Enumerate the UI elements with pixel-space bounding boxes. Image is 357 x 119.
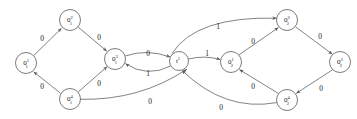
node-q22[interactable]: 022 (277, 10, 298, 31)
edge-label-t1-q22: 1 (216, 22, 220, 31)
edge-q23-q24 (296, 70, 333, 94)
node-q14[interactable]: 041 (60, 89, 81, 110)
edge-t1-q21 (188, 57, 220, 59)
edge-label-t1-q21: 1 (205, 49, 209, 58)
edge-q11-q12 (34, 28, 62, 55)
automaton-canvas: 011 021 031 041 t1 012 (0, 0, 357, 119)
edge-q24-t1 (182, 70, 277, 104)
edge-label-q24-q21: 0 (251, 82, 255, 91)
node-q24[interactable]: 042 (277, 90, 298, 111)
edge-label-q23-q24: 0 (319, 84, 323, 93)
edge-q22-q23 (296, 27, 333, 54)
edge-label-q14-q11: 0 (40, 82, 44, 91)
node-q21[interactable]: 012 (221, 52, 242, 73)
node-layer: 011 021 031 041 t1 012 (16, 10, 351, 111)
node-t1[interactable]: t1 (170, 52, 189, 71)
node-q23[interactable]: 032 (330, 52, 351, 73)
edge-t1-q22 (172, 18, 277, 53)
automaton-diagram: 011 021 031 041 t1 012 (0, 0, 357, 119)
edge-q12-q13 (78, 27, 107, 51)
edge-label-q12-q13: 0 (97, 33, 101, 42)
edge-q21-q22 (239, 28, 278, 55)
edge-label-t1-q13: 1 (146, 69, 150, 78)
edge-q14-q13 (78, 67, 107, 92)
edge-label-q24-t1: 0 (219, 103, 223, 112)
edge-label-q11-q12: 0 (40, 34, 44, 43)
node-q13[interactable]: 031 (105, 49, 126, 70)
edge-label-q21-q22: 0 (251, 37, 255, 46)
edge-q14-q11 (34, 72, 61, 93)
edge-label-q14-q13: 0 (97, 79, 101, 88)
edge-q24-q21 (239, 70, 278, 94)
edge-label-q13-t1: 0 (146, 49, 150, 58)
edge-label-q14-t1: 0 (148, 97, 152, 106)
edge-label-q22-q23: 0 (318, 32, 322, 41)
node-q11[interactable]: 011 (16, 53, 37, 74)
node-q12[interactable]: 021 (60, 10, 81, 31)
